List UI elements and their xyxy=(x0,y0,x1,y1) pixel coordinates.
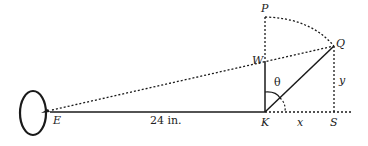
label-E: E xyxy=(52,114,61,127)
label-theta: θ xyxy=(274,76,281,89)
label-P: P xyxy=(260,2,269,15)
arc-PQ xyxy=(265,17,334,46)
label-distance: 24 in. xyxy=(150,114,182,127)
label-Q: Q xyxy=(336,37,345,50)
label-K: K xyxy=(260,116,270,129)
label-x: x xyxy=(297,116,304,129)
label-y: y xyxy=(338,74,346,87)
eye-icon xyxy=(20,91,46,135)
angle-theta-arc xyxy=(265,92,280,98)
label-S: S xyxy=(330,116,338,129)
label-W: W xyxy=(252,54,265,67)
angle-base-arc xyxy=(280,98,285,112)
sight-line-EQ xyxy=(52,46,334,110)
geometry-diagram: E 24 in. K x S y P Q W θ xyxy=(0,0,368,146)
